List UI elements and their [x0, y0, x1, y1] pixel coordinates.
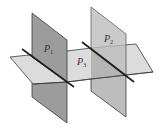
three-planes-diagram: P1 P2 P3 — [0, 0, 163, 130]
diagram-svg: P1 P2 P3 — [0, 0, 163, 130]
